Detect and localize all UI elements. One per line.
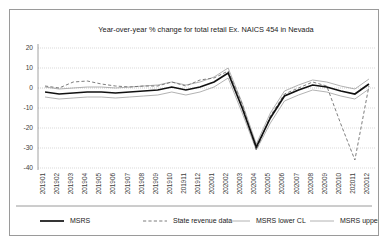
- x-axis-tick-label: 201908: [138, 173, 145, 195]
- x-axis-tick-label: 202011: [349, 173, 356, 194]
- x-axis-tick-label: 201901: [39, 173, 46, 195]
- x-axis-tick-label: 202010: [335, 173, 342, 195]
- x-axis-tick-label: 202008: [307, 173, 314, 195]
- x-axis-tick-label: 201902: [53, 173, 60, 195]
- x-axis-tick-label: 201905: [95, 173, 102, 195]
- x-axis-tick-label: 202006: [278, 173, 285, 195]
- x-axis-tick-label: 202007: [293, 173, 300, 195]
- y-axis-tick-label: -10: [23, 104, 33, 111]
- x-axis-tick-label: 202004: [250, 173, 257, 195]
- y-axis-labels: 20100-10-20-30-40: [23, 44, 33, 171]
- legend-label: State revenue data: [173, 217, 232, 224]
- chart-legend: MSRSState revenue dataMSRS lower CLMSRS …: [40, 217, 378, 225]
- chart-svg: Year-over-year % change for total retail…: [10, 10, 378, 235]
- x-axis-tick-label: 202005: [264, 173, 271, 195]
- legend-label: MSRS lower CL: [256, 217, 306, 224]
- x-axis-tick-label: 202002: [222, 173, 229, 195]
- y-axis-tick-label: 0: [29, 84, 33, 91]
- y-axis-tick-label: 20: [26, 44, 34, 51]
- y-axis-tick-label: -30: [23, 144, 33, 151]
- y-axis-tick-label: 10: [26, 64, 34, 71]
- series-line: [45, 68, 369, 144]
- y-axis-tick-label: -40: [23, 164, 33, 171]
- series-line: [45, 78, 369, 150]
- data-series: [45, 68, 369, 160]
- legend-label: MSRS: [70, 217, 91, 224]
- gridlines: [38, 44, 376, 170]
- legend-label: MSRS upper CL: [340, 217, 378, 225]
- chart-container: Year-over-year % change for total retail…: [9, 9, 379, 236]
- x-axis-tick-label: 201909: [152, 173, 159, 195]
- x-axis-tick-label: 201911: [180, 173, 187, 194]
- x-axis-tick-label: 202012: [363, 173, 370, 195]
- x-axis-tick-label: 201912: [194, 173, 201, 195]
- x-axis-tick-label: 201907: [124, 173, 131, 195]
- x-axis-tick-label: 201903: [67, 173, 74, 195]
- x-axis-tick-label: 202003: [236, 173, 243, 195]
- x-axis-tick-label: 202009: [321, 173, 328, 195]
- y-axis-tick-label: -20: [23, 124, 33, 131]
- x-axis-tick-label: 201906: [109, 173, 116, 195]
- chart-title: Year-over-year % change for total retail…: [98, 25, 314, 34]
- x-axis-tick-label: 201910: [166, 173, 173, 195]
- x-axis-tick-label: 202001: [208, 173, 215, 195]
- x-axis-tick-label: 201904: [81, 173, 88, 195]
- x-axis-labels: 2019012019022019032019042019052019062019…: [39, 173, 370, 195]
